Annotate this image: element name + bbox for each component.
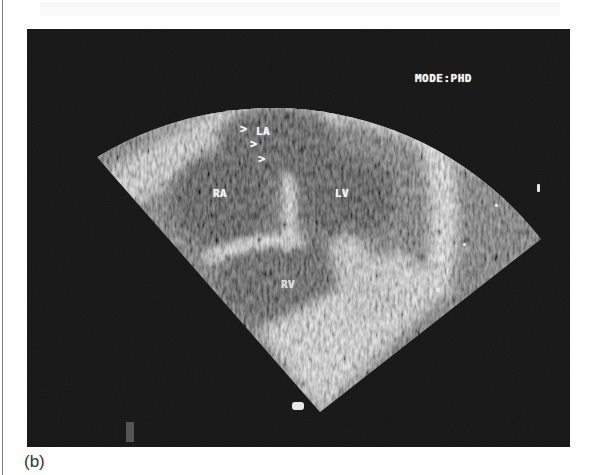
depth-marker (537, 184, 540, 192)
depth-dot (463, 243, 466, 246)
depth-dot (495, 204, 498, 207)
arrow-marker-2: > (250, 137, 258, 151)
probe-marker (292, 402, 304, 410)
label-left-ventricle: LV (335, 187, 349, 200)
ultrasound-sector (27, 29, 570, 447)
arrow-marker-1: > (240, 122, 248, 136)
arrow-marker-3: > (258, 152, 266, 166)
gray-scale-marker (126, 422, 134, 442)
mode-label: MODE:PHD (415, 72, 472, 85)
label-right-atrium: RA (213, 187, 227, 200)
label-left-atrium: LA (256, 125, 270, 138)
echocardiogram-image: MODE:PHD LA RA LV RV > > > (27, 29, 570, 447)
figure-caption: (b) (24, 452, 45, 472)
depth-dot (436, 288, 440, 292)
label-right-ventricle: RV (281, 278, 295, 291)
previous-text-bleed (40, 2, 560, 16)
page-margin-rule (2, 0, 3, 475)
